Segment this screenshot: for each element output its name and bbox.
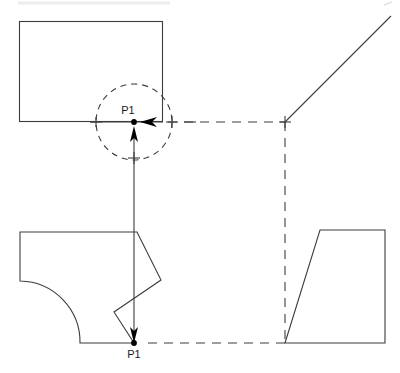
upper-right-diagonal[interactable]	[285, 16, 391, 122]
top-left-rectangle[interactable]	[20, 22, 163, 122]
point-marker-p1-lower[interactable]	[131, 340, 137, 346]
drawing-canvas[interactable]: P1 P1	[0, 0, 400, 373]
bottom-left-profile[interactable]	[20, 232, 161, 343]
point-marker-p1-upper[interactable]	[131, 119, 137, 125]
bottom-right-trapezoid[interactable]	[285, 230, 385, 343]
point-label-p1-lower: P1	[127, 348, 140, 360]
crosshair-right-of-p1	[166, 116, 178, 128]
cad-drawing-svg[interactable]: P1 P1	[0, 0, 400, 373]
crosshair-left-of-p1	[90, 117, 102, 127]
point-label-p1-upper: P1	[121, 104, 134, 116]
